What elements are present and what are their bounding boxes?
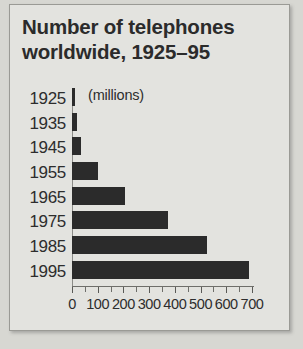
x-axis-tick xyxy=(188,287,189,292)
x-axis-tick xyxy=(175,287,176,293)
x-axis-tick xyxy=(239,287,240,292)
x-axis-tick xyxy=(252,287,253,293)
bar xyxy=(72,162,98,180)
y-axis-tick-label: 1925 xyxy=(14,89,66,109)
x-axis-tick xyxy=(213,287,214,292)
x-axis-tick xyxy=(85,287,86,292)
x-axis-tick xyxy=(136,287,137,292)
x-axis-tick xyxy=(111,287,112,292)
bar xyxy=(72,113,77,131)
x-axis-tick xyxy=(123,287,124,293)
y-axis-tick-label: 1965 xyxy=(14,188,66,208)
figure-container: Number of telephones worldwide, 1925–95 … xyxy=(0,0,303,349)
y-axis-tick-label: 1975 xyxy=(14,212,66,232)
x-axis-tick xyxy=(98,287,99,293)
y-axis-tick-label: 1945 xyxy=(14,138,66,158)
y-axis-tick-label: 1955 xyxy=(14,163,66,183)
y-axis-tick-label: 1995 xyxy=(14,262,66,282)
bar xyxy=(72,137,81,155)
x-axis-tick xyxy=(72,287,73,293)
plot-area: (millions) 19251935194519551965197519851… xyxy=(0,0,303,349)
y-axis-tick-label: 1985 xyxy=(14,237,66,257)
units-annotation: (millions) xyxy=(88,87,144,103)
y-axis-tick-label: 1935 xyxy=(14,114,66,134)
bar xyxy=(72,88,75,106)
bar xyxy=(72,187,125,205)
bar xyxy=(72,261,249,279)
bar xyxy=(72,211,168,229)
x-axis-tick xyxy=(162,287,163,292)
bar xyxy=(72,236,207,254)
x-axis-tick xyxy=(149,287,150,293)
x-axis-tick xyxy=(226,287,227,293)
x-axis-tick xyxy=(201,287,202,293)
x-axis-tick-label: 700 xyxy=(232,296,272,312)
